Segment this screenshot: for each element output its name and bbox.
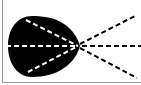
diagram-canvas: [0, 0, 141, 85]
outer-rays: [80, 15, 141, 78]
diagram-frame: [0, 0, 141, 85]
ray-lower-outer: [80, 48, 137, 78]
ray-upper-outer: [80, 15, 137, 44]
